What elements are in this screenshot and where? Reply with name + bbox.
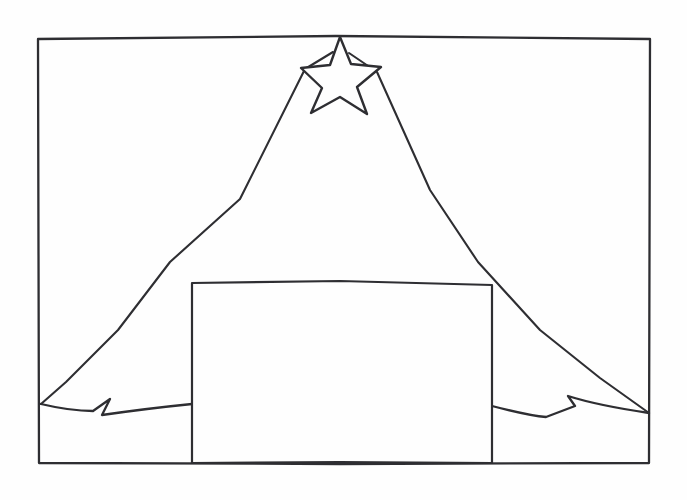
manger-box-fill xyxy=(192,281,492,463)
sketch-canvas xyxy=(0,0,687,500)
sketch-drawing xyxy=(0,0,687,500)
